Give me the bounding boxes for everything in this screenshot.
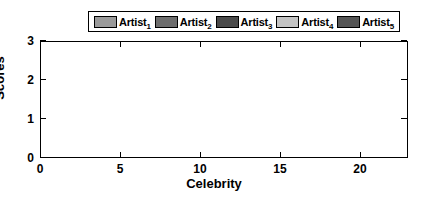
legend-item-artist_3[interactable]: Artist3 xyxy=(216,16,273,28)
legend-swatch-artist_1 xyxy=(94,16,117,28)
legend-item-artist_2[interactable]: Artist2 xyxy=(155,16,212,28)
bar-group xyxy=(41,42,407,157)
legend-swatch-artist_2 xyxy=(155,16,178,28)
legend-swatch-artist_3 xyxy=(216,16,239,28)
plot-area xyxy=(40,41,408,158)
legend-item-artist_4[interactable]: Artist4 xyxy=(276,16,333,28)
x-tick-10 xyxy=(200,152,201,158)
y-tick-right-3 xyxy=(401,40,407,41)
chart-legend: Artist1Artist2Artist3Artist4Artist5 xyxy=(88,11,400,32)
legend-label-artist_1: Artist1 xyxy=(119,16,151,28)
y-tick-label-0: 0 xyxy=(14,151,34,165)
x-tick-label-15: 15 xyxy=(273,162,286,176)
y-tick-right-1 xyxy=(401,118,407,119)
x-tick-top-15 xyxy=(280,41,281,47)
x-tick-label-20: 20 xyxy=(353,162,366,176)
x-tick-top-5 xyxy=(120,41,121,47)
x-tick-label-0: 0 xyxy=(37,162,44,176)
y-tick-right-0 xyxy=(401,157,407,158)
legend-swatch-artist_4 xyxy=(276,16,299,28)
y-axis-title: Scores xyxy=(0,56,7,99)
x-axis-title: Celebrity xyxy=(186,176,242,191)
x-tick-5 xyxy=(120,152,121,158)
y-tick-label-2: 2 xyxy=(14,73,34,87)
legend-label-artist_5: Artist5 xyxy=(362,16,394,28)
y-tick-1 xyxy=(40,118,46,119)
x-tick-top-10 xyxy=(200,41,201,47)
y-tick-right-2 xyxy=(401,79,407,80)
legend-label-artist_4: Artist4 xyxy=(301,16,333,28)
legend-label-artist_3: Artist3 xyxy=(241,16,273,28)
chart-container: Artist1Artist2Artist3Artist4Artist5 0123… xyxy=(0,0,428,200)
legend-swatch-artist_5 xyxy=(337,16,360,28)
x-tick-0 xyxy=(40,152,41,158)
x-tick-20 xyxy=(360,152,361,158)
x-tick-top-20 xyxy=(360,41,361,47)
x-tick-15 xyxy=(280,152,281,158)
y-tick-label-1: 1 xyxy=(14,112,34,126)
x-tick-label-10: 10 xyxy=(193,162,206,176)
legend-item-artist_5[interactable]: Artist5 xyxy=(337,16,394,28)
legend-label-artist_2: Artist2 xyxy=(180,16,212,28)
x-tick-top-0 xyxy=(40,41,41,47)
y-tick-label-3: 3 xyxy=(14,34,34,48)
y-tick-2 xyxy=(40,79,46,80)
legend-item-artist_1[interactable]: Artist1 xyxy=(94,16,151,28)
x-tick-label-5: 5 xyxy=(117,162,124,176)
